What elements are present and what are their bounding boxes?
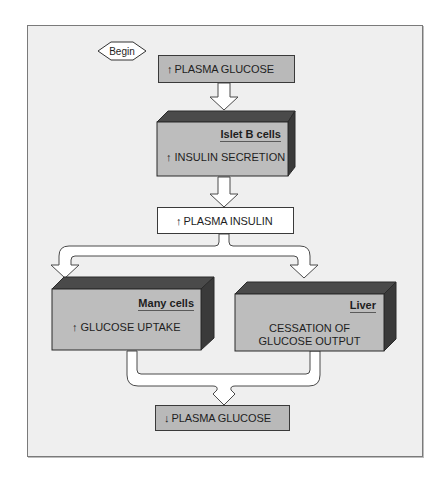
step-label: PLASMA INSULIN [183,215,272,227]
tissue-label: Liver [350,299,376,313]
arrow-up-icon: ↑ [176,215,181,227]
step-plasma-glucose-increase: ↑ PLASMA GLUCOSE [158,55,295,83]
arrow-down-icon [210,83,238,110]
begin-label: Begin [97,41,147,61]
merge-arrow-icon [127,351,320,405]
arrow-up-icon: ↑ [166,151,172,163]
split-arrow-icon [51,234,318,278]
step-plasma-glucose-decrease: ↓ PLASMA GLUCOSE [155,405,290,431]
step-label-line2: GLUCOSE OUTPUT [235,335,384,348]
arrow-down-icon [210,177,238,207]
arrow-up-icon: ↑ [72,321,78,333]
step-label-line1: CESSATION OF [235,322,384,335]
tissue-label: Many cells [138,297,194,311]
step-many-cells: Many cells ↑GLUCOSE UPTAKE [52,277,214,351]
begin-marker: Begin [97,41,147,61]
tissue-label: Islet B cells [220,128,281,142]
step-label: PLASMA GLUCOSE [174,63,273,75]
step-islet-b-cells: Islet B cells ↑INSULIN SECRETION [157,111,295,177]
arrow-up-icon: ↑ [167,63,172,75]
step-label: PLASMA GLUCOSE [171,412,270,424]
step-liver: Liver CESSATION OF GLUCOSE OUTPUT [235,282,396,352]
arrow-down-icon: ↓ [164,412,169,424]
step-label: INSULIN SECRETION [175,151,286,163]
step-plasma-insulin-increase: ↑ PLASMA INSULIN [157,207,294,234]
step-label: GLUCOSE UPTAKE [81,321,181,333]
